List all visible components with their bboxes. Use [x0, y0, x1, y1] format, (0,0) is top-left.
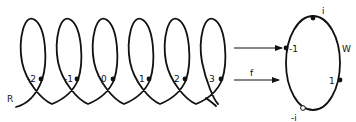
helix-label-0: 0: [101, 74, 107, 84]
circle-label-minus-1: -1: [289, 44, 298, 54]
map-f: f: [234, 48, 282, 80]
helix-label-m2: -2: [27, 74, 36, 84]
helix-point-1: [147, 77, 152, 82]
helix-label-1: 1: [139, 74, 145, 84]
helix-label-m1: -1: [64, 74, 73, 84]
circle-point-minus-1: [284, 46, 289, 51]
circle-label-minus-i: -i: [291, 113, 297, 122]
helix-label-R: R: [7, 94, 13, 104]
circle-W: i -1 1 -i W: [284, 6, 351, 122]
helix-R: -2 -1 0 1 2 3 R: [7, 19, 225, 107]
circle-label-i: i: [322, 6, 325, 16]
helix-point-2: [183, 77, 188, 82]
helix-label-3: 3: [209, 74, 215, 84]
helix-point-3: [219, 77, 224, 82]
circle-point-minus-i: [301, 106, 306, 111]
map-label-f: f: [250, 68, 254, 78]
circle-label-1: 1: [329, 76, 335, 86]
helix-label-2: 2: [174, 74, 180, 84]
helix-to-circle-diagram: -2 -1 0 1 2 3 R f i -1 1 -i W: [0, 0, 356, 122]
circle-point-1: [338, 78, 343, 83]
helix-curve: [16, 19, 225, 107]
helix-point--1: [75, 77, 80, 82]
circle-point-i: [311, 16, 316, 21]
circle-curve: [286, 16, 340, 110]
helix-point-0: [111, 77, 116, 82]
helix-point--2: [39, 77, 44, 82]
circle-label-W: W: [342, 44, 351, 54]
